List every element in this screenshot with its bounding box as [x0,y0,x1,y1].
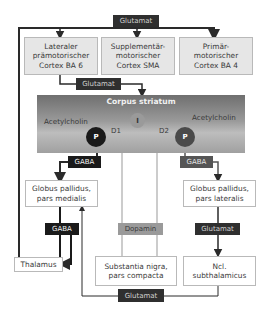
cortex-primary-line-3: Cortex BA 4 [194,61,238,70]
glutamat-bottom-label: Glutamat [118,289,164,302]
gaba-left-label: GABA [68,156,101,168]
glutamat-top-label: Glutamat [113,15,159,27]
cortex-primary-line-2: motorischer [194,51,238,60]
substantia-nigra-line-2: pars compacta [104,271,167,280]
gp-medialis-line-1: Globus pallidus, [32,184,91,193]
globus-pallidus-lateralis-box: Globus pallidus, pars lateralis [183,180,256,207]
substantia-nigra-line-1: Substantia nigra, [104,262,167,271]
projection-neuron-left: P [86,127,106,147]
subthalamicus-line-2: subthalamicus [193,271,247,280]
acetylcholin-right-label: Acetylcholin [192,113,236,122]
cortex-lateral-line-3: Cortex BA 6 [33,61,90,70]
substantia-nigra-box: Substantia nigra, pars compacta [95,256,177,286]
glutamat-right-label: Glutamat [195,223,240,235]
dopamin-label: Dopamin [118,223,163,235]
globus-pallidus-medialis-box: Globus pallidus, pars medialis [25,180,98,207]
cortex-primary-box: Primär- motorischer Cortex BA 4 [179,37,253,75]
projection-neuron-right: P [175,127,195,147]
cortex-lateral-line-1: Lateraler [33,42,90,51]
cortex-sma-line-3: Cortex SMA [111,61,165,70]
ncl-subthalamicus-box: Ncl. subthalamicus [183,256,256,286]
cortex-sma-line-1: Supplementär- [111,42,165,51]
cortex-lateral-box: Lateraler prämotorischer Cortex BA 6 [24,37,98,75]
d2-receptor-label: D2 [159,127,169,135]
cortex-sma-line-2: motorischer [111,51,165,60]
cortex-lateral-line-2: prämotorischer [33,51,90,60]
acetylcholin-left-label: Acetylcholin [44,117,88,126]
gp-lateralis-line-2: pars lateralis [190,194,249,203]
cortex-sma-box: Supplementär- motorischer Cortex SMA [101,37,175,75]
thalamus-box: Thalamus [14,257,63,272]
interneuron-circle: I [130,113,145,128]
corpus-striatum-title: Corpus striatum [37,97,245,106]
subthalamicus-line-1: Ncl. [193,262,247,271]
cortex-primary-line-1: Primär- [194,42,238,51]
d1-receptor-label: D1 [111,127,121,135]
glutamat-cortex-striatum-label: Glutamat [76,78,121,90]
gp-lateralis-line-1: Globus pallidus, [190,184,249,193]
gaba-right-label: GABA [180,156,213,168]
gp-medialis-line-2: pars medialis [32,194,91,203]
gaba-lower-label: GABA [45,223,79,235]
